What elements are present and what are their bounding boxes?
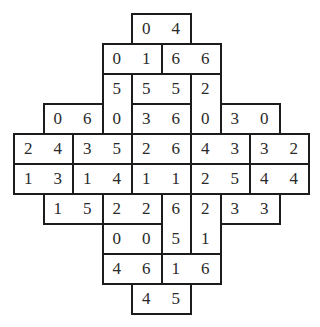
- domino-value: 3: [73, 134, 103, 164]
- domino-value: 6: [73, 104, 103, 134]
- domino-tile: 24: [13, 133, 74, 165]
- domino-value: 0: [191, 104, 221, 134]
- domino-tile: 36: [131, 103, 192, 135]
- domino-tile: 20: [190, 73, 222, 135]
- domino-value: 4: [250, 164, 280, 194]
- domino-value: 0: [102, 224, 132, 254]
- domino-value: 5: [132, 74, 162, 104]
- domino-tile: 25: [190, 163, 251, 195]
- domino-value: 3: [220, 134, 250, 164]
- domino-value: 1: [132, 164, 162, 194]
- domino-value: 5: [161, 74, 191, 104]
- domino-value: 0: [250, 104, 280, 134]
- domino-puzzle-board: 0401665055200636302435264332131411254415…: [0, 0, 320, 327]
- domino-tile: 35: [72, 133, 133, 165]
- domino-tile: 33: [220, 193, 281, 225]
- domino-tile: 45: [131, 283, 192, 315]
- domino-value: 1: [191, 224, 221, 254]
- domino-value: 0: [102, 104, 132, 134]
- domino-value: 2: [132, 194, 162, 224]
- domino-value: 6: [161, 194, 191, 224]
- domino-value: 2: [191, 74, 221, 104]
- domino-tile: 46: [102, 253, 163, 285]
- domino-value: 5: [102, 74, 132, 104]
- domino-value: 0: [132, 14, 162, 44]
- domino-value: 5: [161, 224, 191, 254]
- domino-tile: 55: [131, 73, 192, 105]
- domino-value: 2: [132, 134, 162, 164]
- domino-value: 3: [132, 104, 162, 134]
- domino-value: 4: [102, 164, 132, 194]
- domino-tile: 43: [190, 133, 251, 165]
- domino-value: 5: [161, 284, 191, 314]
- domino-tile: 00: [102, 223, 163, 255]
- domino-value: 5: [73, 194, 103, 224]
- domino-value: 6: [161, 104, 191, 134]
- domino-value: 1: [14, 164, 44, 194]
- domino-value: 1: [43, 194, 73, 224]
- domino-value: 5: [220, 164, 250, 194]
- domino-tile: 04: [131, 13, 192, 45]
- domino-value: 3: [43, 164, 73, 194]
- domino-value: 2: [191, 164, 221, 194]
- domino-value: 6: [132, 254, 162, 284]
- domino-value: 3: [250, 134, 280, 164]
- domino-tile: 66: [161, 43, 222, 75]
- domino-value: 3: [220, 194, 250, 224]
- domino-tile: 15: [43, 193, 104, 225]
- domino-value: 6: [161, 44, 191, 74]
- domino-value: 2: [102, 194, 132, 224]
- domino-tile: 14: [72, 163, 133, 195]
- domino-tile: 21: [190, 193, 222, 255]
- domino-value: 4: [191, 134, 221, 164]
- domino-tile: 50: [102, 73, 134, 135]
- domino-value: 4: [161, 14, 191, 44]
- domino-value: 4: [279, 164, 309, 194]
- domino-tile: 30: [220, 103, 281, 135]
- domino-value: 6: [191, 254, 221, 284]
- domino-value: 4: [102, 254, 132, 284]
- domino-value: 3: [220, 104, 250, 134]
- domino-tile: 16: [161, 253, 222, 285]
- domino-value: 1: [132, 44, 162, 74]
- domino-value: 2: [191, 194, 221, 224]
- domino-value: 2: [279, 134, 309, 164]
- domino-tile: 65: [161, 193, 193, 255]
- domino-value: 1: [73, 164, 103, 194]
- domino-tile: 26: [131, 133, 192, 165]
- domino-tile: 06: [43, 103, 104, 135]
- domino-value: 4: [43, 134, 73, 164]
- domino-value: 2: [14, 134, 44, 164]
- domino-tile: 44: [249, 163, 310, 195]
- domino-tile: 13: [13, 163, 74, 195]
- domino-value: 4: [132, 284, 162, 314]
- domino-tile: 01: [102, 43, 163, 75]
- domino-value: 3: [250, 194, 280, 224]
- domino-tile: 22: [102, 193, 163, 225]
- domino-value: 0: [43, 104, 73, 134]
- domino-value: 1: [161, 254, 191, 284]
- domino-value: 1: [161, 164, 191, 194]
- domino-value: 5: [102, 134, 132, 164]
- domino-value: 0: [102, 44, 132, 74]
- domino-value: 6: [161, 134, 191, 164]
- domino-value: 6: [191, 44, 221, 74]
- domino-tile: 11: [131, 163, 192, 195]
- domino-tile: 32: [249, 133, 310, 165]
- domino-value: 0: [132, 224, 162, 254]
